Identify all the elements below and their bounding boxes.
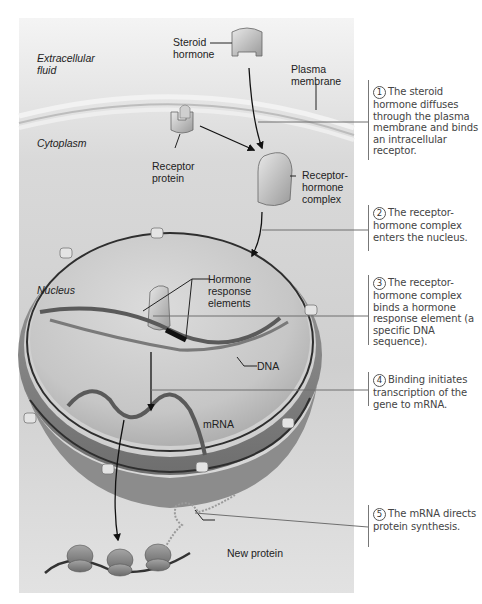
step-5-bracket: [368, 505, 369, 547]
plasma-membrane-label: Plasma membrane: [291, 63, 341, 87]
step-5-text: 5The mRNA directs protein synthesis.: [373, 508, 481, 533]
figure-canvas: Extracellular fluid Cytoplasm Nucleus St…: [0, 0, 482, 604]
step-2-text: 2The receptor-hormone complex enters the…: [373, 207, 481, 243]
step-3-number-badge: 3: [373, 277, 386, 290]
nucleus-label: Nucleus: [37, 284, 75, 296]
new-protein-label: New protein: [227, 547, 283, 559]
receptor-protein-label: Receptor protein: [152, 160, 195, 184]
step-5-number-badge: 5: [373, 508, 386, 521]
step-2-number-badge: 2: [373, 207, 386, 220]
step-3-text: 3The receptor-hormone complex binds a ho…: [373, 277, 481, 348]
dna-label: DNA: [257, 360, 279, 372]
step-2-bracket: [368, 205, 369, 251]
step-4-number-badge: 4: [373, 374, 386, 387]
step-4-bracket: [368, 372, 369, 406]
receptor-hormone-complex-label: Receptor- hormone complex: [302, 169, 348, 205]
extracellular-fluid-label: Extracellular fluid: [37, 52, 95, 76]
mrna-label: mRNA: [203, 418, 234, 430]
nucleus-body: [30, 234, 310, 446]
hormone-response-elements-label: Hormone response elements: [208, 273, 251, 309]
step-1-number-badge: 1: [373, 86, 386, 99]
step-1-bracket: [368, 80, 369, 160]
steroid-hormone-shape: [232, 28, 262, 56]
steroid-hormone-label: Steroid hormone: [173, 36, 214, 60]
step-1-text: 1The steroid hormone diffuses through th…: [373, 86, 481, 157]
step-4-text: 4Binding initiates transcription of the …: [373, 374, 481, 410]
step-3-bracket: [368, 275, 369, 345]
receptor-hormone-complex-shape: [258, 153, 292, 206]
cytoplasm-label: Cytoplasm: [37, 137, 87, 149]
